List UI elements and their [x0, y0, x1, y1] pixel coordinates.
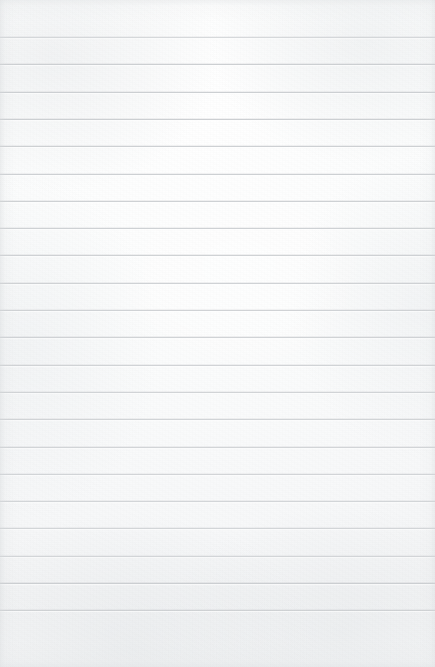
- scanned-page: [0, 0, 435, 667]
- paper-edge-shading: [0, 0, 435, 667]
